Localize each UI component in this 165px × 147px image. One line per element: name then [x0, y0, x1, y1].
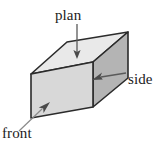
label-plan: plan — [55, 8, 81, 23]
label-front: front — [2, 126, 32, 141]
label-side: side — [128, 72, 153, 87]
figure-container: plan side front — [0, 0, 165, 147]
